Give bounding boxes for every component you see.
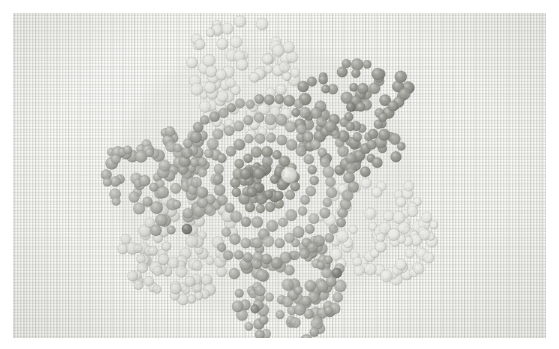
bead-shading <box>168 257 179 268</box>
bead-shading <box>380 270 392 282</box>
bead-shading <box>244 134 253 143</box>
bead-shading <box>407 206 418 217</box>
bead-shading <box>332 268 342 278</box>
bead-shading <box>235 99 245 109</box>
bead-shading <box>261 254 271 264</box>
bead-shading <box>222 23 233 34</box>
bead-shading <box>338 208 348 218</box>
bead-shading <box>391 151 402 162</box>
bead-shading <box>254 112 264 122</box>
bead-shading <box>235 289 244 298</box>
bead-shading <box>346 102 356 112</box>
bead-shading <box>357 83 368 94</box>
bead-shading <box>336 218 345 227</box>
bead-shading <box>275 94 285 104</box>
bead-shading <box>129 192 140 203</box>
bead-shading <box>252 216 263 227</box>
bead-shading <box>326 277 336 287</box>
bead-shading <box>279 61 290 72</box>
bead-shading <box>153 266 162 275</box>
bead-shading <box>372 157 383 168</box>
bead-shading <box>183 208 193 218</box>
bead-shading <box>305 224 314 233</box>
bead-shading <box>212 129 223 140</box>
bead-shading <box>368 129 378 139</box>
bead-shading <box>251 147 262 158</box>
bead-shading <box>290 182 299 191</box>
bead-shading <box>285 121 296 132</box>
bead-shading <box>173 144 182 153</box>
bead-shading <box>176 266 188 278</box>
bead-shading <box>246 100 255 109</box>
bead-shading <box>128 271 138 281</box>
bead-shading <box>214 164 224 174</box>
bead-shading <box>405 249 414 258</box>
bead-shading <box>123 146 131 154</box>
bead-shading <box>205 66 217 78</box>
bead-shading <box>148 246 157 255</box>
bead-shading <box>389 133 400 144</box>
bead-shading <box>319 75 328 84</box>
bead-shading <box>249 72 259 82</box>
bead-shading <box>256 269 268 281</box>
bead-shading <box>284 233 294 243</box>
bead-shading <box>300 195 310 205</box>
bead-shading <box>398 222 410 234</box>
bead-shading <box>375 241 386 252</box>
bead-shading <box>369 83 380 94</box>
bead-shading <box>198 157 207 166</box>
bead-shading <box>200 115 209 124</box>
bead-shading <box>206 28 214 36</box>
bead-shading <box>229 268 240 279</box>
bead-shading <box>265 114 276 125</box>
bead-shading <box>323 198 332 207</box>
bead-shading <box>272 45 284 57</box>
bead-shading <box>134 244 143 253</box>
bead-shading <box>265 202 275 212</box>
bead-shading <box>190 131 202 143</box>
bead-shading <box>225 78 235 88</box>
bead-shading <box>265 293 274 302</box>
bead-shading <box>155 214 167 226</box>
bead-shading <box>323 166 335 178</box>
bead-shading <box>296 124 306 134</box>
bead-shading <box>274 191 283 200</box>
bead-shading <box>399 88 411 100</box>
bead-shading <box>276 310 285 319</box>
bead-shading <box>276 84 287 95</box>
bead-shading <box>383 211 394 222</box>
bead-shading <box>291 68 300 77</box>
bead-shading <box>255 285 266 296</box>
bead-shading <box>331 130 340 139</box>
bead-shading <box>318 148 327 157</box>
bead-shading <box>251 258 261 268</box>
bead-shading <box>325 177 335 187</box>
bead-shading <box>264 65 273 74</box>
bead-shading <box>298 81 309 92</box>
bead-shading <box>299 107 310 118</box>
bead-shading <box>182 286 190 294</box>
bead-shading <box>376 233 385 242</box>
bead-shading <box>423 252 434 263</box>
bead-shading <box>206 257 214 265</box>
bead-shading <box>255 133 265 143</box>
bead-shading <box>361 178 371 188</box>
bead-shading <box>283 41 294 52</box>
bead-shading <box>241 217 251 227</box>
bead-shading <box>153 285 162 294</box>
bead-shading <box>170 183 181 194</box>
bead-shading <box>356 102 365 111</box>
bead-shading <box>364 263 376 275</box>
bead-shading <box>310 328 319 337</box>
bead-shading <box>217 38 228 49</box>
bead-shading <box>282 296 293 307</box>
bead-shading <box>232 301 243 312</box>
bead-shading <box>137 262 148 273</box>
bead-shading <box>217 195 228 206</box>
bead-shading <box>256 204 265 213</box>
bead-shading <box>187 57 198 68</box>
bead-shading <box>224 125 234 135</box>
beadwork-layer <box>13 13 546 338</box>
bead-shading <box>165 126 175 136</box>
bead-shading <box>204 82 216 94</box>
